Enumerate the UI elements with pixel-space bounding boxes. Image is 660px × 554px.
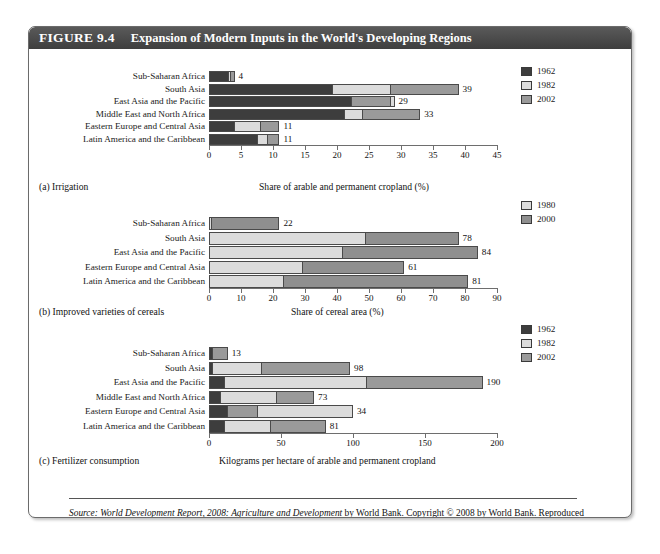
bar-segment-1962 <box>209 420 225 433</box>
legend-swatch-icon <box>521 353 532 362</box>
bar-row <box>209 261 497 274</box>
bar-segment-1962 <box>209 134 258 145</box>
bar-row <box>209 275 497 288</box>
category-label: South Asia <box>29 364 205 373</box>
category-label: Sub-Saharan Africa <box>29 349 205 358</box>
bar-row <box>209 96 497 107</box>
figure-number: FIGURE 9.4 <box>39 30 115 46</box>
legend-label: 2002 <box>537 353 555 362</box>
legend-item-1982[interactable]: 1982 <box>521 81 555 90</box>
bar-segment-1962 <box>209 405 228 418</box>
category-label: East Asia and the Pacific <box>29 378 205 387</box>
bar-segment-1982 <box>209 376 367 389</box>
legend-item-2002[interactable]: 2002 <box>521 353 555 362</box>
legend-swatch-icon <box>521 339 532 348</box>
bar-segment-1962 <box>209 391 221 404</box>
figure-title: Expansion of Modern Inputs in the World'… <box>131 31 472 46</box>
x-axis-tick-label: 50 <box>277 439 286 448</box>
bar-row <box>209 347 497 360</box>
source-note: Source: World Development Report, 2008: … <box>69 507 589 518</box>
bar-segment-1962 <box>209 362 213 375</box>
x-axis-tick-label: 15 <box>301 151 310 160</box>
x-axis-tick-label: 100 <box>346 439 360 448</box>
bar-row <box>209 376 497 389</box>
category-label: Middle East and North Africa <box>29 110 205 119</box>
axis-caption-c: Kilograms per hectare of arable and perm… <box>219 455 436 466</box>
source-title: World Development Report, 2008: Agricult… <box>100 508 342 518</box>
category-label: Eastern Europe and Central Asia <box>29 263 205 272</box>
x-axis-tick-label: 90 <box>493 294 502 303</box>
x-axis-tick-label: 5 <box>239 151 244 160</box>
x-axis-tick-label: 25 <box>365 151 374 160</box>
bar-segment-1962 <box>209 96 352 107</box>
legend-label: 1980 <box>537 201 555 210</box>
bar-segment-1962 <box>209 84 333 95</box>
category-label: Latin America and the Caribbean <box>29 422 205 431</box>
bar-row <box>209 84 497 95</box>
legend-swatch-icon <box>521 201 532 210</box>
legend-swatch-icon <box>521 215 532 224</box>
legend-item-2002[interactable]: 2002 <box>521 95 555 104</box>
legend-item-1980[interactable]: 1980 <box>521 201 555 210</box>
bar-row <box>209 134 497 145</box>
legend-label: 2002 <box>537 95 555 104</box>
category-label: Eastern Europe and Central Asia <box>29 407 205 416</box>
figure-header: FIGURE 9.4 Expansion of Modern Inputs in… <box>29 27 631 49</box>
figure-card: FIGURE 9.4 Expansion of Modern Inputs in… <box>28 26 632 518</box>
x-axis-tick-label: 50 <box>365 294 374 303</box>
bar-value-label: 39 <box>463 85 472 94</box>
x-axis-tick-label: 0 <box>207 294 212 303</box>
bar-value-label: 81 <box>472 277 481 286</box>
x-axis-tick-label: 20 <box>333 151 342 160</box>
legend-label: 1982 <box>537 81 555 90</box>
legend-item-1982[interactable]: 1982 <box>521 339 555 348</box>
bar-row <box>209 362 497 375</box>
bar-value-label: 78 <box>463 234 472 243</box>
category-label: East Asia and the Pacific <box>29 248 205 257</box>
bar-segment-1980 <box>209 246 343 259</box>
chart-panel-improved-varieties: Sub-Saharan Africa22South Asia78East Asi… <box>29 195 632 325</box>
bar-value-label: 98 <box>354 364 363 373</box>
bar-segment-1980 <box>209 275 284 288</box>
x-axis-tick-label: 40 <box>333 294 342 303</box>
x-axis-tick-label: 60 <box>397 294 406 303</box>
bar-segment-1962 <box>209 347 213 360</box>
bar-row <box>209 405 497 418</box>
legend-swatch-icon <box>521 81 532 90</box>
bar-segment-1962 <box>209 121 235 132</box>
bar-segment-1962 <box>209 71 229 82</box>
x-axis-tick-label: 30 <box>397 151 406 160</box>
x-axis-tick-label: 40 <box>461 151 470 160</box>
chart-panel-fertilizer: Sub-Saharan Africa13South Asia98East Asi… <box>29 317 632 467</box>
bar-row <box>209 420 497 433</box>
legend-item-1962[interactable]: 1962 <box>521 67 555 76</box>
x-axis-tick-label: 35 <box>429 151 438 160</box>
bar-value-label: 29 <box>399 97 408 106</box>
category-label: Eastern Europe and Central Asia <box>29 122 205 131</box>
category-label: Sub-Saharan Africa <box>29 219 205 228</box>
category-label: East Asia and the Pacific <box>29 97 205 106</box>
footer-divider <box>69 498 577 499</box>
bar-segment-2000 <box>209 217 279 230</box>
x-axis-line <box>209 145 498 146</box>
bar-value-label: 13 <box>232 349 241 358</box>
bar-value-label: 61 <box>408 263 417 272</box>
x-axis-tick-label: 0 <box>207 151 212 160</box>
bar-segment-1980 <box>209 232 366 245</box>
x-axis-tick-label: 20 <box>269 294 278 303</box>
legend-swatch-icon <box>521 95 532 104</box>
x-axis-tick-label: 30 <box>301 294 310 303</box>
x-axis-tick-label: 200 <box>490 439 504 448</box>
legend-label: 1962 <box>537 325 555 334</box>
x-axis-tick-label: 150 <box>418 439 432 448</box>
bar-value-label: 22 <box>283 219 292 228</box>
bar-segment-1962 <box>209 109 345 120</box>
x-axis-tick-label: 0 <box>207 439 212 448</box>
x-axis-tick-label: 10 <box>237 294 246 303</box>
legend-item-2000[interactable]: 2000 <box>521 215 555 224</box>
bar-row <box>209 232 497 245</box>
bar-value-label: 84 <box>482 248 491 257</box>
category-label: Sub-Saharan Africa <box>29 72 205 81</box>
legend-item-1962[interactable]: 1962 <box>521 325 555 334</box>
bar-value-label: 33 <box>424 110 433 119</box>
